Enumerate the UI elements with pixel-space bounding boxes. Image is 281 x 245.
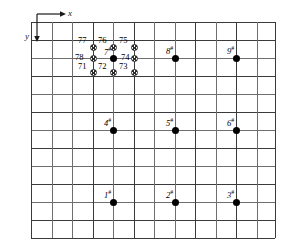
node-3-label: 3# <box>227 189 234 199</box>
gridline-vertical-8 <box>195 22 196 238</box>
gridline-vertical-0 <box>31 22 32 238</box>
gridline-horizontal-8 <box>31 166 275 167</box>
gridline-vertical-12 <box>275 22 276 238</box>
gridline-horizontal-5 <box>31 112 275 113</box>
sat-73-marker[interactable] <box>131 69 138 76</box>
gridline-horizontal-9 <box>31 184 275 185</box>
sat-77-marker[interactable] <box>90 44 97 51</box>
gridline-horizontal-7 <box>31 148 275 149</box>
node-5-label: 5# <box>166 117 173 127</box>
sat-73-label: 73 <box>119 62 128 71</box>
gridline-horizontal-12 <box>31 238 275 239</box>
gridline-horizontal-1 <box>31 40 275 41</box>
node-6-label: 6# <box>227 117 234 127</box>
sat-78-marker[interactable] <box>90 55 97 62</box>
gridline-horizontal-11 <box>31 220 275 221</box>
sat-75-marker[interactable] <box>131 44 138 51</box>
node-4-marker[interactable] <box>110 127 117 134</box>
gridline-vertical-11 <box>257 22 258 238</box>
gridline-vertical-6 <box>154 22 155 238</box>
node-2-label: 2# <box>166 189 173 199</box>
gridline-vertical-2 <box>72 22 73 238</box>
gridline-vertical-1 <box>52 22 53 238</box>
gridline-vertical-9 <box>216 22 217 238</box>
gridline-horizontal-0 <box>31 22 275 23</box>
node-9-marker[interactable] <box>233 55 240 62</box>
grid-figure: x y 1#2#3#4#5#6#7#8#9#7776757874717273 <box>0 0 281 245</box>
sat-72-marker[interactable] <box>110 69 117 76</box>
sat-77-label: 77 <box>78 36 87 45</box>
node-6-marker[interactable] <box>233 127 240 134</box>
node-8-marker[interactable] <box>172 55 179 62</box>
sat-71-label: 71 <box>78 62 87 71</box>
sat-72-label: 72 <box>98 62 107 71</box>
node-5-marker[interactable] <box>172 127 179 134</box>
node-3-marker[interactable] <box>233 199 240 206</box>
sat-71-marker[interactable] <box>90 69 97 76</box>
gridline-horizontal-4 <box>31 94 275 95</box>
sat-76-label: 76 <box>98 36 107 45</box>
node-1-marker[interactable] <box>110 199 117 206</box>
sat-76-marker[interactable] <box>110 44 117 51</box>
sat-74-marker[interactable] <box>131 55 138 62</box>
gridline-horizontal-3 <box>31 76 275 77</box>
node-2-marker[interactable] <box>172 199 179 206</box>
grid-lines <box>0 0 281 245</box>
node-1-label: 1# <box>104 189 111 199</box>
node-8-label: 8# <box>166 45 173 55</box>
sat-75-label: 75 <box>119 36 128 45</box>
node-4-label: 4# <box>104 117 111 127</box>
node-9-label: 9# <box>227 45 234 55</box>
